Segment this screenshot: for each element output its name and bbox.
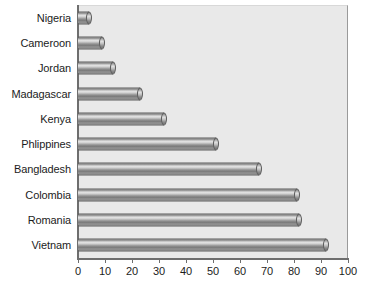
bar-chart: NigeriaCameroonJordanMadagascarKenyaPhli… [0,0,365,284]
category-label-kenya: Kenya [40,113,71,125]
x-tick-label: 40 [180,265,192,277]
bar-row: Cameroon [0,30,365,55]
bar-colombia [78,188,297,201]
x-tick-mark [159,258,160,263]
bar-cap [213,138,219,151]
bar-row: Jordan [0,56,365,81]
bar-rows: NigeriaCameroonJordanMadagascarKenyaPhli… [0,5,365,258]
category-label-phlippines: Phlippines [21,138,71,150]
x-tick-label: 50 [207,265,219,277]
bar-vietnam [78,239,326,252]
bar-row: Madagascar [0,81,365,106]
bar-row: Phlippines [0,131,365,156]
x-tick-mark [267,258,268,263]
category-label-cameroon: Cameroon [20,37,71,49]
bar-cap [161,112,167,125]
x-tick-mark [132,258,133,263]
bar-jordan [78,62,113,75]
bar-cap [294,188,300,201]
x-tick-label: 100 [339,265,357,277]
x-tick-mark [348,258,349,263]
bar-cap [296,214,302,227]
bar-row: Nigeria [0,5,365,30]
bar-cap [86,11,92,24]
x-tick-label: 90 [315,265,327,277]
category-label-bangladesh: Bangladesh [14,163,71,175]
category-label-nigeria: Nigeria [37,12,71,24]
x-tick-mark [294,258,295,263]
category-label-romania: Romania [28,214,71,226]
bar-cap [256,163,262,176]
x-tick-label: 20 [126,265,138,277]
x-tick-mark [78,258,79,263]
bar-cap [137,87,143,100]
x-tick-mark [321,258,322,263]
category-label-vietnam: Vietnam [32,239,71,251]
bar-nigeria [78,11,89,24]
bar-row: Bangladesh [0,157,365,182]
category-label-jordan: Jordan [38,62,71,74]
x-tick-label: 0 [75,265,81,277]
x-axis: 0102030405060708090100 [0,258,365,284]
bar-bangladesh [78,163,259,176]
x-tick-mark [213,258,214,263]
x-tick-mark [105,258,106,263]
category-label-madagascar: Madagascar [11,88,71,100]
bar-row: Colombia [0,182,365,207]
x-tick-label: 70 [261,265,273,277]
bar-madagascar [78,87,140,100]
bar-romania [78,214,299,227]
bar-cameroon [78,36,102,49]
bar-cap [323,239,329,252]
bar-kenya [78,112,164,125]
category-label-colombia: Colombia [25,189,71,201]
x-tick-mark [186,258,187,263]
bar-row: Kenya [0,106,365,131]
bar-cap [99,36,105,49]
bar-phlippines [78,138,216,151]
x-tick-label: 60 [234,265,246,277]
x-tick-label: 30 [153,265,165,277]
x-tick-mark [240,258,241,263]
x-tick-label: 80 [288,265,300,277]
bar-row: Romania [0,207,365,232]
bar-cap [110,62,116,75]
bar-row: Vietnam [0,233,365,258]
x-tick-label: 10 [99,265,111,277]
